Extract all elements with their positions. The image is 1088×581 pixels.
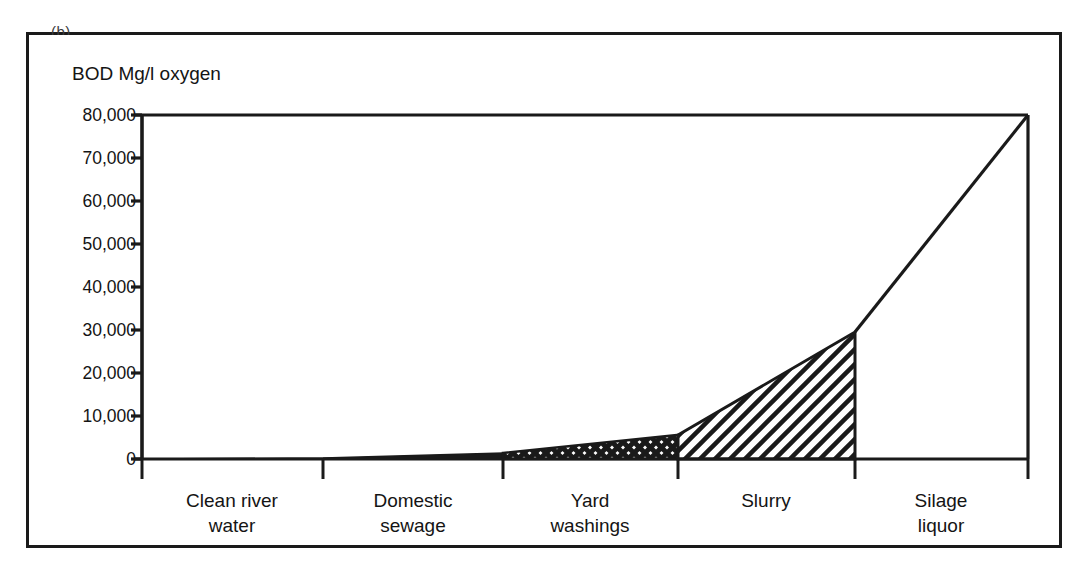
- area-fill-crosshatch-yard-washings: [503, 435, 678, 459]
- x-label-domestic-sewage-line2: sewage: [380, 515, 446, 536]
- y-tick-label-80000: 80,000: [82, 105, 136, 125]
- x-label-yard-washings-line1: Yard: [571, 490, 610, 511]
- y-tick-label-40000: 40,000: [82, 277, 136, 297]
- y-axis-title: BOD Mg/l oxygen: [72, 63, 221, 84]
- x-label-clean-river-water-line1: Clean river: [186, 490, 279, 511]
- page-root: (b) BOD Mg/l oxygen 80,000 70,000 60,000…: [0, 0, 1088, 581]
- line-segment-silage-liquor: [855, 115, 1028, 332]
- area-fill-diagonal-slurry: [678, 332, 855, 459]
- x-label-silage-liquor-line2: liquor: [918, 515, 965, 536]
- x-label-slurry-line1: Slurry: [741, 490, 791, 511]
- x-label-domestic-sewage-line1: Domestic: [373, 490, 452, 511]
- y-tick-label-10000: 10,000: [82, 406, 136, 426]
- x-axis-ticks: [142, 459, 1028, 479]
- y-tick-label-20000: 20,000: [82, 363, 136, 383]
- x-label-yard-washings-line2: washings: [549, 515, 629, 536]
- y-tick-label-60000: 60,000: [82, 191, 136, 211]
- x-label-silage-liquor-line1: Silage: [915, 490, 968, 511]
- x-label-clean-river-water-line2: water: [208, 515, 256, 536]
- y-tick-label-70000: 70,000: [82, 148, 136, 168]
- figure-frame: (b) BOD Mg/l oxygen 80,000 70,000 60,000…: [26, 32, 1062, 548]
- x-axis-category-labels: Clean river water Domestic sewage Yard w…: [186, 490, 967, 536]
- panel-label: (b): [51, 23, 71, 35]
- y-tick-label-50000: 50,000: [82, 234, 136, 254]
- y-tick-label-30000: 30,000: [82, 320, 136, 340]
- bod-area-chart: BOD Mg/l oxygen 80,000 70,000 60,000 50,…: [29, 35, 1059, 545]
